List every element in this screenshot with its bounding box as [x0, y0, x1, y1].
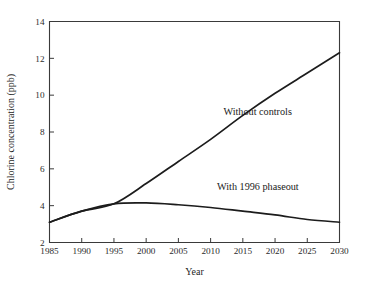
y-tick-label-4: 4	[40, 201, 45, 211]
y-tick-label-10: 10	[35, 90, 45, 100]
series-line-without-controls	[50, 53, 340, 222]
y-tick-label-6: 6	[40, 164, 45, 174]
annotation-without-controls: Without controls	[224, 106, 292, 117]
x-tick-label-2005: 2005	[169, 246, 188, 256]
series-line-with-1996-phaseout	[50, 203, 340, 222]
x-tick-label-2025: 2025	[298, 246, 317, 256]
x-tick-label-2020: 2020	[266, 246, 285, 256]
chart-canvas: 2468101214198519901995200020052010201520…	[0, 0, 367, 289]
annotation-with-1996-phaseout: With 1996 phaseout	[217, 181, 299, 192]
x-tick-label-2010: 2010	[201, 246, 220, 256]
x-tick-label-1995: 1995	[105, 246, 124, 256]
x-tick-label-2030: 2030	[330, 246, 349, 256]
y-tick-label-14: 14	[35, 17, 45, 27]
x-tick-label-1985: 1985	[40, 246, 59, 256]
x-tick-label-2015: 2015	[234, 246, 253, 256]
chlorine-concentration-chart: 2468101214198519901995200020052010201520…	[0, 0, 367, 289]
y-tick-label-8: 8	[40, 127, 45, 137]
x-tick-label-1990: 1990	[73, 246, 92, 256]
y-tick-label-12: 12	[35, 54, 45, 64]
x-tick-label-2000: 2000	[137, 246, 156, 256]
x-axis-title: Year	[185, 266, 204, 277]
y-axis-title: Chlorine concentration (ppb)	[5, 74, 17, 190]
